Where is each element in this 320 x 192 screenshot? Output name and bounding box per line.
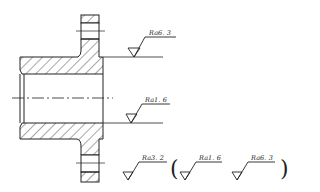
roughness-symbol-icon — [128, 37, 176, 57]
roughness-symbol-icon — [232, 162, 275, 180]
extension-lines — [103, 57, 163, 123]
general-roughness-main: Ra3. 2 — [142, 154, 164, 162]
upper-section — [20, 15, 103, 74]
roughness-label-bore: Ra1. 6 — [145, 96, 167, 104]
roughness-symbol-icon — [180, 162, 222, 180]
lower-section — [20, 123, 103, 182]
bore-outline — [20, 74, 103, 123]
roughness-symbol-icon — [123, 162, 167, 180]
general-roughness-other-2: Ra6. 3 — [251, 154, 273, 162]
general-roughness-other-1: Ra1. 6 — [199, 154, 221, 162]
roughness-label-top-face: Ra6. 3 — [149, 29, 171, 37]
open-paren: ( — [170, 158, 179, 180]
roughness-symbol-icon — [126, 104, 170, 123]
close-paren: ) — [280, 158, 289, 180]
